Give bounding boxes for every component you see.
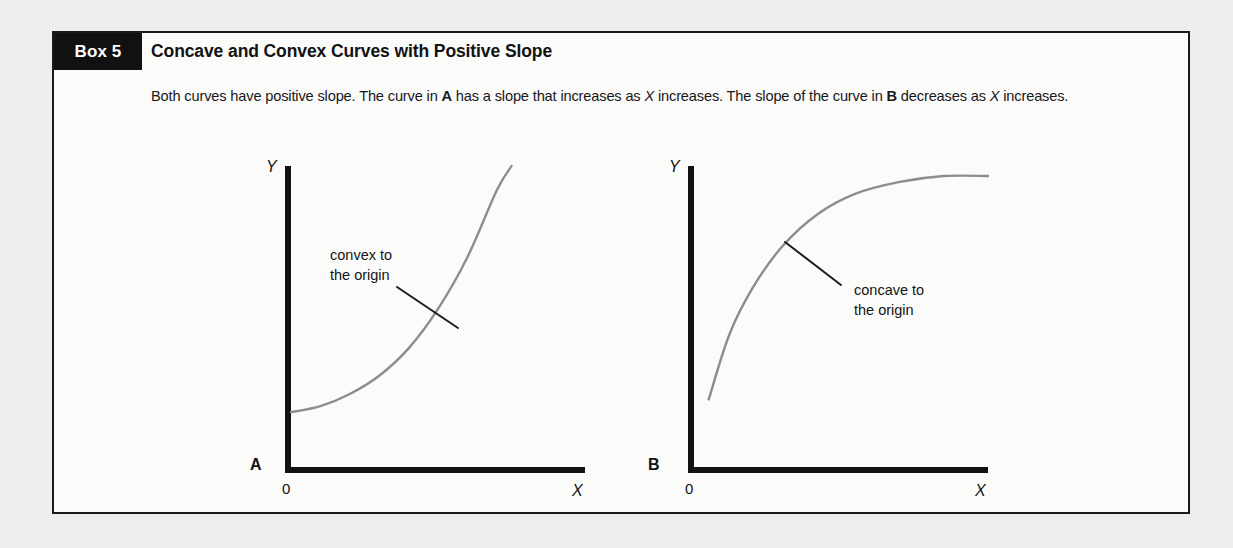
box-intro-paragraph: Both curves have positive slope. The cur… [151,84,1141,109]
intro-text-part5: increases. [999,88,1068,104]
convex-curve-a [291,166,512,412]
concave-curve-b [709,176,988,400]
intro-text-part2: has a slope that increases as [452,88,644,104]
intro-text-part1: Both curves have positive slope. The cur… [151,88,442,104]
intro-bold-a: A [442,88,452,104]
annotation-label-a-line2: the origin [330,267,390,283]
y-axis-label-b: Y [669,158,681,175]
x-axis-label-a: X [571,482,584,499]
box-number-tab: Box 5 [54,33,142,70]
x-axis-label-b: X [974,482,987,499]
box-header: Box 5 Concave and Convex Curves with Pos… [54,33,1188,72]
annotation-leader-line-b [785,242,841,285]
intro-italic-x-2: X [990,88,1000,104]
annotation-label-b-line2: the origin [854,302,914,318]
panel-label-a: A [250,456,262,473]
origin-label-b: 0 [685,480,693,497]
annotation-label-b-line1: concave to [854,282,924,298]
intro-text-part4: decreases as [897,88,990,104]
textbook-box: Box 5 Concave and Convex Curves with Pos… [52,31,1190,514]
intro-italic-x-1: X [644,88,654,104]
annotation-leader-line-a [397,287,458,328]
annotation-label-a-line1: convex to [330,247,392,263]
chart-panel-a: convex to the origin Y X 0 A [250,158,585,499]
intro-bold-b: B [887,88,897,104]
panel-label-b: B [648,456,660,473]
intro-text-part3: increases. The slope of the curve in [654,88,887,104]
y-axis-label-a: Y [266,158,278,175]
origin-label-a: 0 [282,480,290,497]
chart-panel-b: concave to the origin Y X 0 B [648,158,988,499]
page-canvas: Box 5 Concave and Convex Curves with Pos… [0,0,1233,548]
box-title: Concave and Convex Curves with Positive … [151,33,552,70]
